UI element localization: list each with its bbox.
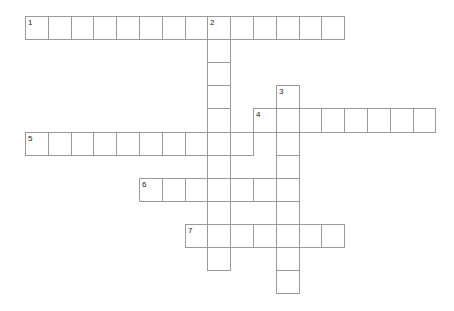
crossword-cell[interactable] <box>207 108 231 133</box>
crossword-cell[interactable] <box>276 247 300 271</box>
crossword-cell[interactable]: 7 <box>185 224 208 248</box>
crossword-cell[interactable]: 3 <box>276 85 300 109</box>
crossword-cell[interactable] <box>185 132 208 156</box>
crossword-cell[interactable] <box>207 62 231 86</box>
crossword-cell[interactable] <box>71 16 94 40</box>
crossword-cell[interactable] <box>299 224 322 248</box>
crossword-cell[interactable] <box>162 178 186 202</box>
crossword-cell[interactable] <box>139 132 163 156</box>
crossword-cell[interactable]: 6 <box>139 178 163 202</box>
crossword-cell[interactable] <box>48 16 72 40</box>
clue-number: 7 <box>188 226 192 235</box>
crossword-cell[interactable] <box>207 201 231 225</box>
crossword-cell[interactable] <box>253 16 277 40</box>
crossword-cell[interactable] <box>185 16 208 40</box>
clue-number: 6 <box>142 180 146 189</box>
crossword-cell[interactable] <box>230 178 254 202</box>
crossword-cell[interactable] <box>367 108 391 133</box>
crossword-cell[interactable] <box>207 132 231 156</box>
crossword-cell[interactable] <box>185 178 208 202</box>
crossword-cell[interactable] <box>321 108 345 133</box>
crossword-cell[interactable] <box>276 178 300 202</box>
crossword-cell[interactable]: 4 <box>253 108 277 133</box>
crossword-cell[interactable] <box>230 132 254 156</box>
crossword-cell[interactable] <box>207 247 231 271</box>
crossword-cell[interactable] <box>207 178 231 202</box>
crossword-cell[interactable] <box>71 132 94 156</box>
crossword-cell[interactable] <box>253 224 277 248</box>
crossword-cell[interactable] <box>116 132 140 156</box>
crossword-cell[interactable] <box>207 85 231 109</box>
crossword-cell[interactable] <box>299 16 322 40</box>
clue-number: 4 <box>256 110 260 119</box>
crossword-cell[interactable] <box>207 224 231 248</box>
crossword-cell[interactable] <box>321 224 345 248</box>
crossword-cell[interactable]: 1 <box>25 16 49 40</box>
clue-number: 5 <box>28 134 32 143</box>
crossword-cell[interactable] <box>276 201 300 225</box>
crossword-cell[interactable] <box>344 108 368 133</box>
crossword-cell[interactable] <box>276 108 300 133</box>
crossword-cell[interactable] <box>230 224 254 248</box>
crossword-cell[interactable] <box>93 132 117 156</box>
crossword-cell[interactable] <box>162 132 186 156</box>
crossword-cell[interactable] <box>390 108 414 133</box>
crossword-cell[interactable] <box>253 178 277 202</box>
crossword-cell[interactable] <box>276 270 300 294</box>
crossword-cell[interactable] <box>276 224 300 248</box>
crossword-cell[interactable] <box>276 132 300 156</box>
crossword-cell[interactable] <box>413 108 436 133</box>
crossword-cell[interactable] <box>276 155 300 179</box>
crossword-grid: 1234567 <box>0 0 454 311</box>
crossword-cell[interactable] <box>299 108 322 133</box>
crossword-cell[interactable] <box>207 155 231 179</box>
crossword-cell[interactable] <box>139 16 163 40</box>
crossword-cell[interactable] <box>162 16 186 40</box>
crossword-cell[interactable] <box>276 16 300 40</box>
crossword-cell[interactable] <box>230 16 254 40</box>
crossword-cell[interactable]: 5 <box>25 132 49 156</box>
crossword-cell[interactable] <box>321 16 345 40</box>
clue-number: 2 <box>210 18 214 27</box>
clue-number: 3 <box>279 87 283 96</box>
crossword-cell[interactable] <box>207 39 231 63</box>
crossword-cell[interactable] <box>116 16 140 40</box>
clue-number: 1 <box>28 18 32 27</box>
crossword-cell[interactable]: 2 <box>207 16 231 40</box>
crossword-cell[interactable] <box>48 132 72 156</box>
crossword-cell[interactable] <box>93 16 117 40</box>
